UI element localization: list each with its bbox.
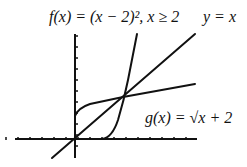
f-label: f(x) = (x − 2)², x ≥ 2 (49, 9, 179, 25)
graph (0, 0, 247, 167)
curve-f (102, 34, 137, 139)
g-label: g(x) = √x + 2 (145, 110, 232, 126)
line-label: y = x (203, 9, 236, 25)
